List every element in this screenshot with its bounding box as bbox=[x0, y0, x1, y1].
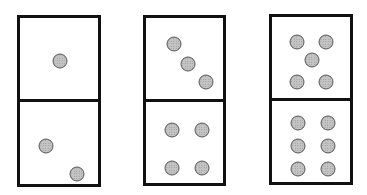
pip-dot-icon bbox=[290, 75, 305, 90]
pip-dot-icon bbox=[195, 160, 210, 175]
pip-dot-icon bbox=[319, 35, 334, 50]
domino-top-half bbox=[20, 18, 98, 101]
domino-top-half bbox=[272, 17, 350, 100]
pip-dot-icon bbox=[305, 53, 320, 68]
domino-bottom-half bbox=[272, 100, 350, 183]
domino-bottom-half bbox=[20, 101, 98, 184]
pip-dot-icon bbox=[291, 161, 306, 176]
pip-dot-icon bbox=[181, 57, 196, 72]
pip-dot-icon bbox=[290, 35, 305, 50]
domino-1 bbox=[17, 15, 101, 187]
pip-dot-icon bbox=[165, 160, 180, 175]
domino-3 bbox=[269, 14, 353, 185]
pip-dot-icon bbox=[321, 138, 336, 153]
pip-dot-icon bbox=[291, 138, 306, 153]
pip-dot-icon bbox=[199, 75, 214, 90]
domino-2 bbox=[143, 15, 226, 186]
pip-dot-icon bbox=[319, 75, 334, 90]
domino-bottom-half bbox=[146, 101, 223, 184]
pip-dot-icon bbox=[195, 122, 210, 137]
pip-dot-icon bbox=[321, 161, 336, 176]
pip-dot-icon bbox=[165, 122, 180, 137]
pip-dot-icon bbox=[291, 115, 306, 130]
pip-dot-icon bbox=[39, 139, 54, 154]
pip-dot-icon bbox=[321, 115, 336, 130]
domino-top-half bbox=[146, 18, 223, 101]
pip-dot-icon bbox=[167, 37, 182, 52]
pip-dot-icon bbox=[53, 54, 68, 69]
pip-dot-icon bbox=[70, 167, 85, 182]
